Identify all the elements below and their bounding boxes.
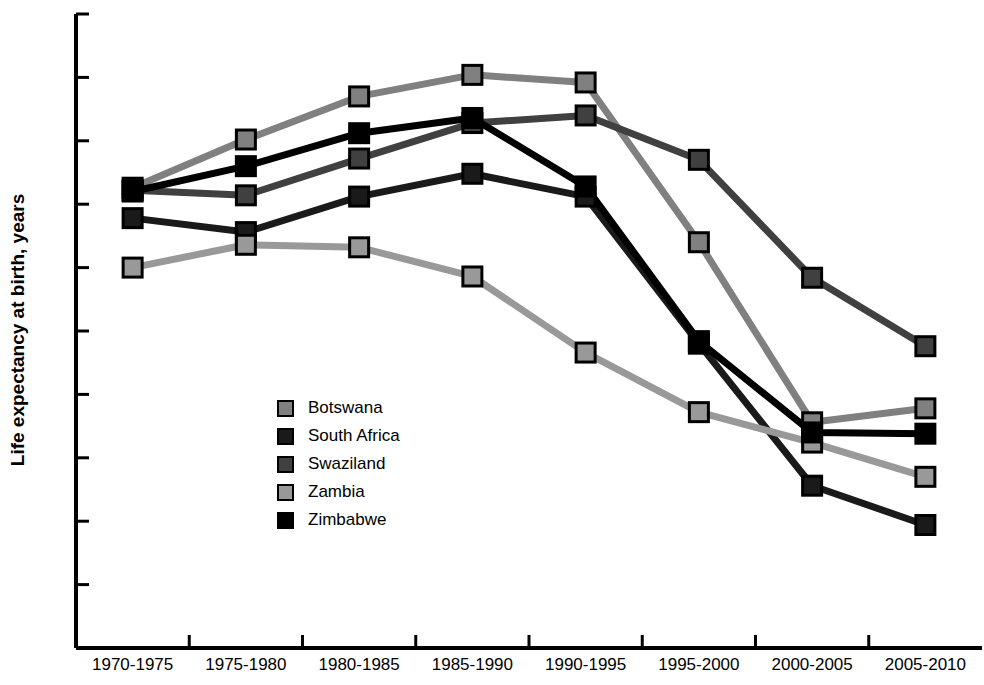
data-point-marker bbox=[236, 235, 255, 254]
legend-label: South Africa bbox=[308, 426, 400, 446]
x-axis-tick-label: 2005-2010 bbox=[885, 655, 966, 675]
data-point-marker bbox=[916, 516, 935, 535]
data-point-marker bbox=[236, 130, 255, 149]
legend-label: Zimbabwe bbox=[308, 510, 386, 530]
line-chart: Life expectancy at birth, years 20253035… bbox=[0, 0, 984, 685]
data-point-marker bbox=[916, 424, 935, 443]
series-markers bbox=[123, 65, 935, 534]
data-point-marker bbox=[350, 149, 369, 168]
data-point-marker bbox=[463, 267, 482, 286]
data-point-marker bbox=[123, 182, 142, 201]
x-axis-tick-label: 1995-2000 bbox=[658, 655, 739, 675]
data-point-marker bbox=[123, 209, 142, 228]
x-axis-tick-label: 2000-2005 bbox=[771, 655, 852, 675]
axis-lines bbox=[76, 14, 982, 648]
chart-legend: BotswanaSouth AfricaSwazilandZambiaZimba… bbox=[277, 397, 400, 531]
data-point-marker bbox=[916, 467, 935, 486]
x-axis-tick-label: 1980-1985 bbox=[318, 655, 399, 675]
plot-area bbox=[0, 0, 984, 685]
data-point-marker bbox=[123, 258, 142, 277]
legend-item-swaziland: Swaziland bbox=[277, 453, 400, 475]
data-point-marker bbox=[463, 164, 482, 183]
x-axis-tick-label: 1970-1975 bbox=[92, 655, 173, 675]
x-axis-tick-label: 1990-1995 bbox=[545, 655, 626, 675]
data-point-marker bbox=[350, 187, 369, 206]
x-axis-tick-label: 1975-1980 bbox=[205, 655, 286, 675]
legend-swatch-icon bbox=[277, 484, 294, 501]
legend-item-botswana: Botswana bbox=[277, 397, 400, 419]
legend-swatch-icon bbox=[277, 456, 294, 473]
data-point-marker bbox=[689, 332, 708, 351]
data-point-marker bbox=[803, 423, 822, 442]
data-point-marker bbox=[576, 343, 595, 362]
x-axis-tick-label: 1985-1990 bbox=[432, 655, 513, 675]
data-point-marker bbox=[916, 337, 935, 356]
legend-item-zambia: Zambia bbox=[277, 481, 400, 503]
legend-label: Botswana bbox=[308, 398, 383, 418]
data-point-marker bbox=[350, 238, 369, 257]
data-point-marker bbox=[236, 157, 255, 176]
data-point-marker bbox=[576, 73, 595, 92]
data-point-marker bbox=[689, 150, 708, 169]
data-point-marker bbox=[916, 399, 935, 418]
data-point-marker bbox=[350, 124, 369, 143]
legend-swatch-icon bbox=[277, 428, 294, 445]
data-point-marker bbox=[689, 233, 708, 252]
data-point-marker bbox=[463, 65, 482, 84]
data-point-marker bbox=[576, 106, 595, 125]
data-point-marker bbox=[689, 403, 708, 422]
data-point-marker bbox=[350, 87, 369, 106]
legend-item-south-africa: South Africa bbox=[277, 425, 400, 447]
data-point-marker bbox=[236, 186, 255, 205]
legend-label: Swaziland bbox=[308, 454, 386, 474]
data-point-marker bbox=[463, 108, 482, 127]
data-point-marker bbox=[576, 177, 595, 196]
data-point-marker bbox=[803, 476, 822, 495]
legend-swatch-icon bbox=[277, 400, 294, 417]
legend-swatch-icon bbox=[277, 512, 294, 529]
legend-item-zimbabwe: Zimbabwe bbox=[277, 509, 400, 531]
data-point-marker bbox=[803, 268, 822, 287]
legend-label: Zambia bbox=[308, 482, 365, 502]
